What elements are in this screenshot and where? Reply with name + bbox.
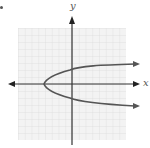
- curve-arrow-lower: [133, 103, 140, 109]
- y-axis-label: y: [70, 0, 76, 11]
- x-axis-arrow-right: [133, 81, 140, 87]
- curve-arrow-upper: [133, 61, 140, 67]
- x-axis-label: x: [143, 77, 149, 88]
- x-axis-arrow-left: [8, 81, 15, 87]
- y-axis-arrow-up: [69, 16, 75, 24]
- parabola-graph: [0, 0, 150, 148]
